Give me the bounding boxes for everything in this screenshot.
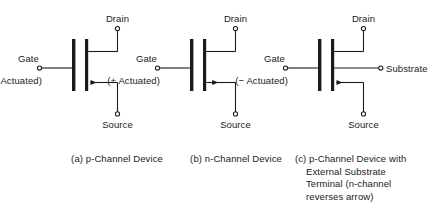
- device-a-gate-label: Gate: [18, 53, 39, 64]
- device-a-gate-terminal: [37, 66, 41, 70]
- device-a-gate-sublabel: (− Actuated): [0, 75, 42, 86]
- device-b-symbol: [155, 27, 237, 117]
- device-c-caption-line-1: (c) p-Channel Device with: [295, 153, 406, 166]
- device-c-channel-bar: [331, 39, 334, 91]
- device-c-drain-terminal: [361, 27, 365, 31]
- device-c-substrate-label: Substrate: [386, 63, 428, 74]
- device-b-source-label: Source: [220, 119, 251, 130]
- device-a-symbol: [37, 27, 119, 117]
- device-b-gate-terminal: [155, 66, 159, 70]
- device-b-gate-label: Gate: [136, 53, 157, 64]
- device-a-drain-terminal: [115, 27, 119, 31]
- device-c-gate-label: Gate: [264, 53, 285, 64]
- device-c-caption-line-2: External Substrate: [295, 166, 406, 179]
- device-c-gate-bar: [318, 39, 321, 91]
- device-c-caption-line-3: Terminal (n-channel: [295, 178, 406, 191]
- device-b-gate-bar: [190, 39, 193, 91]
- device-a-drain-label: Drain: [106, 13, 129, 24]
- device-c-symbol: [283, 27, 383, 117]
- device-b-channel-bar: [203, 39, 206, 91]
- device-c-caption-line-4: reverses arrow): [295, 191, 406, 204]
- device-a-channel-bar: [85, 39, 88, 91]
- device-b-drain-terminal: [233, 27, 237, 31]
- device-b-gate-sublabel: (+ Actuated): [107, 75, 160, 86]
- device-c-gate-sublabel: (− Actuated): [235, 75, 288, 86]
- device-c-substrate-terminal: [379, 66, 383, 70]
- device-c-source-label: Source: [348, 119, 379, 130]
- device-a-source-label: Source: [102, 119, 133, 130]
- device-a-caption: (a) p-Channel Device: [71, 153, 163, 166]
- device-a-gate-bar: [72, 39, 75, 91]
- device-b-source-terminal: [233, 112, 237, 116]
- device-c-drain-label: Drain: [352, 13, 375, 24]
- device-c-caption: (c) p-Channel Device with External Subst…: [295, 153, 406, 203]
- device-c-gate-terminal: [283, 66, 287, 70]
- mosfet-symbols-figure: Drain Gate (− Actuated) Source Drain Gat…: [0, 0, 439, 209]
- device-a-source-terminal: [115, 112, 119, 116]
- device-b-source-arrowhead: [212, 80, 218, 85]
- device-c-source-terminal: [361, 112, 365, 116]
- device-b-caption: (b) n-Channel Device: [190, 153, 282, 166]
- device-b-drain-label: Drain: [224, 13, 247, 24]
